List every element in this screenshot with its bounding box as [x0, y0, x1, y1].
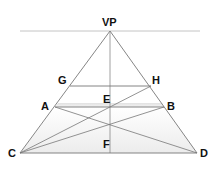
- label-d: D: [200, 147, 208, 159]
- label-a: A: [41, 100, 49, 112]
- label-h: H: [152, 74, 160, 86]
- label-g: G: [58, 74, 67, 86]
- perspective-diagram: VP G H A E B C F D: [0, 0, 217, 175]
- label-f: F: [103, 138, 110, 150]
- label-b: B: [167, 100, 175, 112]
- label-vp: VP: [102, 16, 117, 28]
- label-e: E: [103, 93, 110, 105]
- label-c: C: [8, 147, 16, 159]
